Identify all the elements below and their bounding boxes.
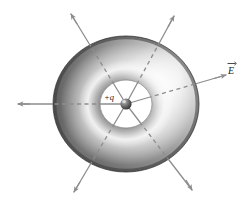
charge-sphere-highlight bbox=[122, 100, 126, 103]
point-charge bbox=[120, 98, 131, 109]
charge-sphere bbox=[120, 98, 131, 109]
charge-label: +q bbox=[104, 92, 115, 102]
field-label: E bbox=[227, 65, 234, 76]
physics-figure: +q E bbox=[0, 0, 251, 202]
torus-field-diagram: +q E bbox=[0, 0, 251, 202]
